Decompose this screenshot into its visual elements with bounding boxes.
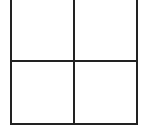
grid-line-bottom xyxy=(10,123,138,125)
grid-line-center-vertical xyxy=(73,0,75,125)
grid-line-center-horizontal xyxy=(10,60,138,62)
grid-line-left xyxy=(10,0,12,125)
grid-line-right xyxy=(136,0,138,125)
grid-cell-bottom-left xyxy=(12,62,73,123)
grid-cell-top-right xyxy=(75,0,136,60)
grid-cell-bottom-right xyxy=(75,62,136,123)
grid-cell-top-left xyxy=(12,0,73,60)
